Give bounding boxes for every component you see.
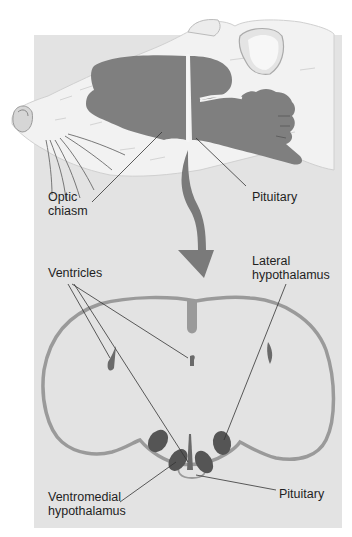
- label-lateral-hypothalamus: Lateral hypothalamus: [252, 254, 330, 282]
- label-pituitary-top: Pituitary: [252, 190, 297, 204]
- label-optic-chiasm: Optic chiasm: [48, 190, 88, 218]
- label-pituitary-bottom: Pituitary: [279, 487, 324, 501]
- figure: Optic chiasm Pituitary Ventricles Latera…: [0, 0, 352, 537]
- label-ventromedial-hypothalamus: Ventromedial hypothalamus: [48, 490, 126, 518]
- label-ventricles: Ventricles: [48, 266, 102, 280]
- longitudinal-fissure: [188, 301, 196, 333]
